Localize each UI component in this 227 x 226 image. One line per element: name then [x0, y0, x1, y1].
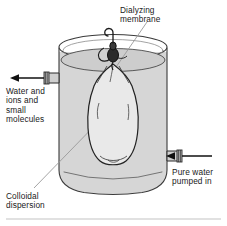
outflow-arrow-left [10, 74, 44, 82]
label-colloidal-dispersion: Colloidal dispersion [6, 192, 45, 211]
dialysis-diagram: Dialyzing membrane Water and ions and sm… [0, 0, 227, 226]
label-water-and-ions-and-small-molecules: Water and ions and small molecules [6, 87, 45, 125]
left-outlet-tube [44, 72, 59, 84]
label-dialyzing-membrane: Dialyzing membrane [120, 6, 160, 25]
suspension-hook [105, 29, 113, 43]
label-pure-water-pumped-in: Pure water pumped in [172, 168, 213, 187]
inflow-arrow-left [166, 152, 212, 160]
